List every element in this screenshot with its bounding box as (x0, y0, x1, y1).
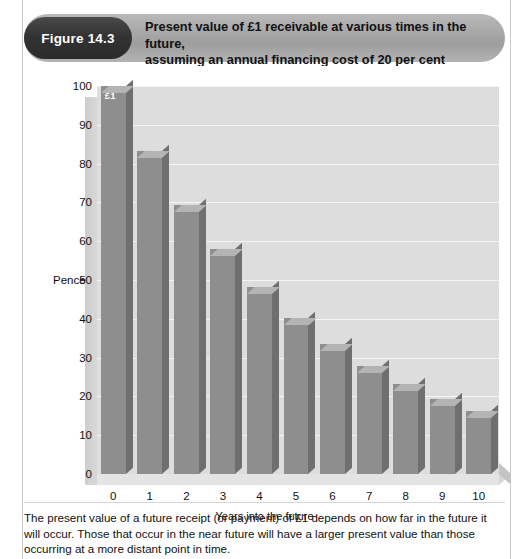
bar-side-face (235, 243, 242, 474)
bar-side-face (308, 312, 315, 474)
x-axis-tick-label: 3 (220, 490, 226, 502)
bar (393, 384, 418, 474)
chart-bars: £1 (97, 86, 499, 474)
figure-caption: The present value of a future receipt (o… (24, 510, 502, 557)
bar-side-face (345, 338, 352, 474)
x-axis-tick-label: 8 (402, 490, 408, 502)
y-axis-tick-label: 0 (86, 468, 92, 480)
bar-front-face (357, 366, 382, 474)
figure-number-badge: Figure 14.3 (24, 17, 132, 59)
bar (357, 366, 382, 474)
bar-front-face (466, 411, 491, 474)
bar-side-face (418, 377, 425, 474)
bar-side-face (199, 198, 206, 474)
y-axis-tick-label: 70 (79, 196, 92, 208)
chart-floor-front (97, 474, 499, 485)
x-axis-tick-label: 6 (329, 490, 335, 502)
x-axis-tick-label: 0 (110, 490, 116, 502)
chart-area: 0102030405060708090100Pence £1 012345678… (24, 66, 505, 498)
x-axis-tick-label: 2 (183, 490, 189, 502)
figure-number-label: Figure 14.3 (41, 31, 114, 46)
bar-side-face (382, 359, 389, 474)
bar-front-face (210, 249, 235, 474)
x-axis-tick-label: 4 (256, 490, 262, 502)
x-axis-tick-label: 10 (472, 490, 485, 502)
bar-side-face (162, 144, 169, 474)
x-axis-tick-label: 7 (366, 490, 372, 502)
bar-front-face (430, 399, 455, 474)
bar (284, 318, 309, 474)
figure-page: Figure 14.3 Present value of £1 receivab… (0, 0, 522, 559)
bar-front-face (247, 287, 272, 474)
bar-side-face (272, 281, 279, 474)
x-axis-tick-label: 1 (147, 490, 153, 502)
y-axis-tick-label: 60 (79, 235, 92, 247)
bar-value-label: £1 (105, 90, 116, 101)
x-axis-tick-label: 5 (293, 490, 299, 502)
y-axis-tick-label: 20 (79, 390, 92, 402)
figure-title: Present value of £1 receivable at variou… (145, 19, 495, 69)
bar-front-face (320, 344, 345, 474)
y-axis-tick-label: 90 (79, 119, 92, 131)
bar-front-face (101, 86, 126, 474)
y-axis-tick-label: 40 (79, 313, 92, 325)
bar-side-face (126, 80, 133, 474)
bar (174, 205, 199, 474)
bar (247, 287, 272, 474)
bar-front-face (393, 384, 418, 474)
y-axis-tick-label: 10 (79, 429, 92, 441)
bar: £1 (101, 86, 126, 474)
y-axis-tick-label: 80 (79, 158, 92, 170)
bar (320, 344, 345, 474)
y-axis-tick-label: 100 (73, 80, 92, 92)
bar-front-face (137, 151, 162, 474)
bar (210, 249, 235, 474)
caption-divider (24, 502, 505, 503)
bar-front-face (174, 205, 199, 474)
bar-front-face (284, 318, 309, 474)
y-axis-title: Pence (53, 274, 86, 286)
x-axis-tick-label: 9 (439, 490, 445, 502)
bar (137, 151, 162, 474)
page-rule-left (22, 0, 23, 559)
y-axis-tick-label: 30 (79, 352, 92, 364)
bar (430, 399, 455, 474)
bar (466, 411, 491, 474)
figure-title-line-1: Present value of £1 receivable at variou… (145, 19, 495, 52)
y-axis-ticks: 0102030405060708090100Pence (24, 66, 92, 498)
